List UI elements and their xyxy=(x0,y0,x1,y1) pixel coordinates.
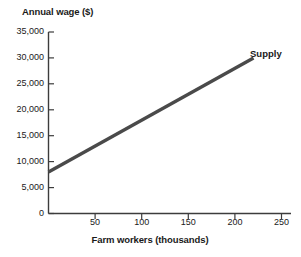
y-tick-0: 0 xyxy=(0,208,44,220)
y-tick-label: 35,000 xyxy=(0,26,44,36)
y-tick-label: 20,000 xyxy=(0,104,44,114)
y-tick-label: 15,000 xyxy=(0,130,44,140)
supply-line xyxy=(49,58,254,172)
y-tick-label: 25,000 xyxy=(0,78,44,88)
y-tick-5000: 5,000 xyxy=(0,182,44,194)
y-tick-label: 30,000 xyxy=(0,52,44,62)
x-axis-title: Farm workers (thousands) xyxy=(0,234,300,245)
y-tick-35000: 35,000 xyxy=(0,26,44,38)
chart-figure: Annual wage ($) 35,000 xyxy=(0,0,300,257)
x-tick-100: 100 xyxy=(122,217,162,227)
y-tick-marks xyxy=(49,32,55,214)
y-tick-label: 10,000 xyxy=(0,156,44,166)
x-tick-250: 250 xyxy=(262,217,301,227)
y-tick-label: 0 xyxy=(0,208,44,218)
x-tick-200: 200 xyxy=(215,217,255,227)
x-tick-50: 50 xyxy=(75,217,115,227)
y-tick-20000: 20,000 xyxy=(0,104,44,116)
y-tick-10000: 10,000 xyxy=(0,156,44,168)
y-tick-25000: 25,000 xyxy=(0,78,44,90)
y-tick-15000: 15,000 xyxy=(0,130,44,142)
supply-series-label: Supply xyxy=(250,48,282,59)
x-tick-150: 150 xyxy=(168,217,208,227)
y-tick-30000: 30,000 xyxy=(0,52,44,64)
y-tick-label: 5,000 xyxy=(0,182,44,192)
